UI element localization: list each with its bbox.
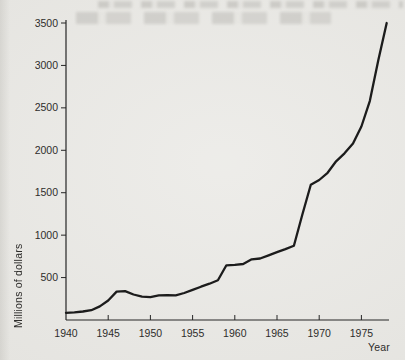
y-tick-label: 2500 — [35, 101, 59, 113]
line-chart: 5001000150020002500300035001940194519501… — [0, 0, 405, 360]
x-tick-label: 1960 — [223, 327, 247, 339]
y-tick-label: 3000 — [35, 59, 59, 71]
x-tick-label: 1955 — [181, 327, 205, 339]
scanned-chart-page: Millions of dollars 50010001500200025003… — [0, 0, 405, 360]
x-tick-label: 1945 — [97, 327, 121, 339]
x-tick-label: 1970 — [308, 327, 332, 339]
y-tick-label: 2000 — [35, 144, 59, 156]
x-tick-label: 1950 — [139, 327, 163, 339]
x-tick-label: 1975 — [350, 327, 374, 339]
y-tick-label: 1500 — [35, 186, 59, 198]
x-tick-label: 1965 — [265, 327, 289, 339]
x-axis-title: Year — [348, 341, 390, 353]
y-tick-label: 3500 — [35, 17, 59, 29]
data-curve — [66, 23, 387, 313]
y-tick-label: 500 — [40, 271, 58, 283]
x-tick-label: 1940 — [54, 327, 78, 339]
y-tick-label: 1000 — [35, 229, 59, 241]
